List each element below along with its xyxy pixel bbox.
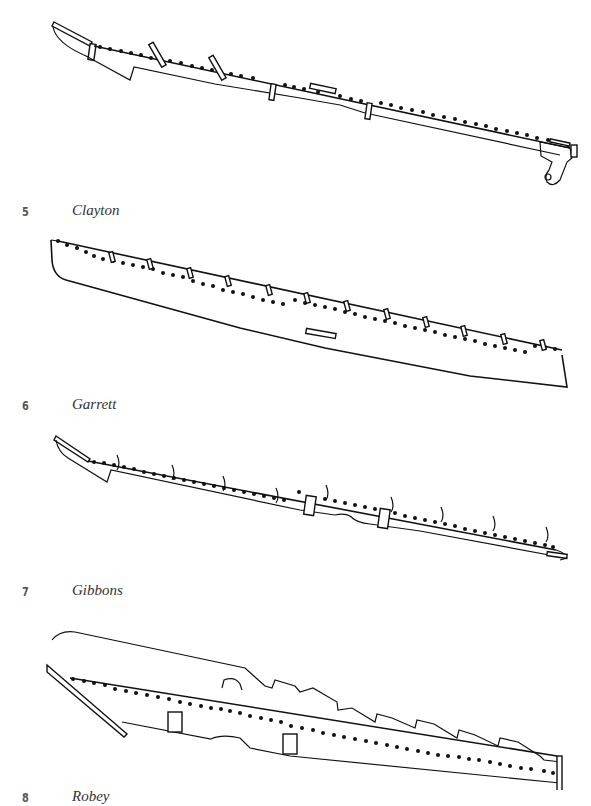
gibbons-knife-bar-drawing bbox=[0, 420, 591, 585]
figure-garrett: 6 Garrett bbox=[0, 230, 591, 410]
figure-title: Gibbons bbox=[72, 582, 123, 599]
figure-caption: 5 Clayton bbox=[0, 204, 591, 226]
figure-title: Robey bbox=[72, 788, 109, 805]
figure-caption: 7 Gibbons bbox=[0, 584, 591, 606]
figure-clayton: 5 Clayton bbox=[0, 0, 591, 230]
figure-gibbons: 7 Gibbons bbox=[0, 420, 591, 600]
rivet-row bbox=[98, 45, 570, 147]
figure-number: 6 bbox=[22, 398, 29, 413]
figure-number: 8 bbox=[22, 790, 29, 805]
knife-section-hooks bbox=[117, 455, 548, 542]
figure-number: 5 bbox=[22, 204, 29, 219]
figure-caption: 6 Garrett bbox=[0, 398, 591, 420]
figure-robey: 8 Robey bbox=[0, 620, 591, 806]
figure-title: Garrett bbox=[72, 396, 116, 413]
robey-knife-bar-drawing bbox=[0, 620, 591, 790]
figure-caption: 8 Robey bbox=[0, 790, 591, 806]
figure-number: 7 bbox=[22, 584, 29, 599]
figure-title: Clayton bbox=[72, 202, 120, 219]
clayton-knife-bar-drawing bbox=[0, 0, 591, 200]
garrett-knife-bar-drawing bbox=[0, 230, 591, 400]
rivet-row bbox=[92, 460, 555, 549]
